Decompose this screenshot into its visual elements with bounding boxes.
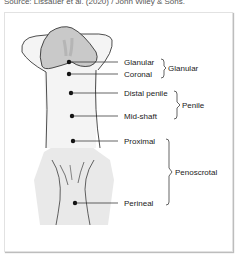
label-perineal: Perineal bbox=[124, 199, 154, 208]
group-penoscrotal: Penoscrotal bbox=[175, 168, 217, 177]
label-glanular: Glanular bbox=[124, 58, 155, 67]
brace-penoscrotal bbox=[166, 139, 172, 205]
anatomy-diagram: Glanular Coronal Distal penile Mid-shaft… bbox=[0, 0, 239, 256]
group-penile: Penile bbox=[182, 101, 205, 110]
group-glanular: Glanular bbox=[168, 64, 199, 73]
label-coronal: Coronal bbox=[124, 70, 152, 79]
brace-penile bbox=[174, 91, 180, 119]
brace-glanular bbox=[161, 59, 166, 78]
scrotum-shape bbox=[34, 142, 114, 225]
label-mid-shaft: Mid-shaft bbox=[124, 112, 158, 121]
label-distal-penile: Distal penile bbox=[124, 89, 168, 98]
label-proximal: Proximal bbox=[124, 137, 155, 146]
